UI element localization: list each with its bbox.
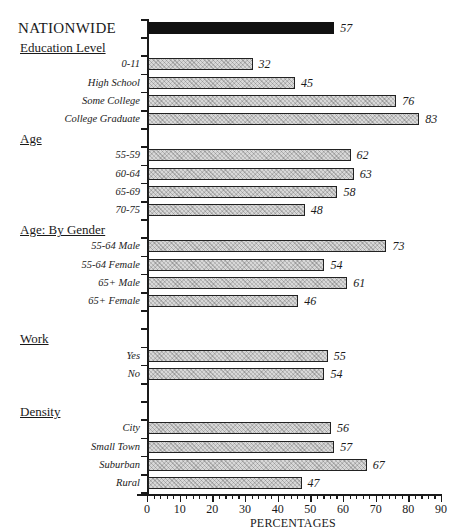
category-label: 65-69	[0, 186, 140, 198]
y-axis-tick	[141, 347, 147, 349]
bar-value-label: 76	[402, 95, 414, 107]
bar	[148, 149, 351, 161]
group-heading: Education Level	[20, 41, 106, 55]
bar	[148, 441, 334, 453]
x-axis-minor-tick	[434, 495, 435, 499]
x-tick-label: 30	[233, 502, 257, 517]
x-tick-label: 0	[135, 502, 159, 517]
x-axis-minor-tick	[297, 495, 298, 499]
bar-value-label: 61	[353, 277, 365, 289]
y-axis-tick	[141, 74, 147, 76]
x-axis-major-tick	[376, 495, 377, 502]
y-axis-tick	[141, 456, 147, 458]
x-axis-minor-tick	[421, 495, 422, 499]
category-label: City	[0, 422, 140, 434]
y-axis-tick	[141, 128, 147, 130]
x-axis-label: PERCENTAGES	[250, 516, 336, 531]
y-axis-tick	[141, 92, 147, 94]
y-axis-tick	[141, 183, 147, 185]
group-heading: Work	[20, 332, 49, 346]
bar-value-label: 54	[330, 259, 342, 271]
x-axis-minor-tick	[402, 495, 403, 499]
x-axis-major-tick	[408, 495, 409, 502]
x-axis-major-tick	[441, 495, 442, 502]
x-axis-minor-tick	[395, 495, 396, 499]
y-axis-tick	[141, 237, 147, 239]
bar	[148, 422, 331, 434]
x-axis-major-tick	[147, 495, 148, 502]
bar	[148, 368, 324, 380]
bar	[148, 186, 337, 198]
category-label: 60-64	[0, 168, 140, 180]
bar-value-label: 67	[373, 459, 385, 471]
x-axis-minor-tick	[258, 495, 259, 499]
category-label: Yes	[0, 350, 140, 362]
x-tick-label: 20	[200, 502, 224, 517]
x-tick-label: 10	[168, 502, 192, 517]
x-axis-major-tick	[212, 495, 213, 502]
y-axis-tick	[141, 201, 147, 203]
y-axis-tick	[141, 310, 147, 312]
category-label: 55-64 Female	[0, 259, 140, 271]
x-axis-minor-tick	[252, 495, 253, 499]
bar-value-label: 48	[311, 204, 323, 216]
y-axis-tick	[141, 365, 147, 367]
bar-value-label: 54	[330, 368, 342, 380]
category-label: 0-11	[0, 58, 140, 70]
x-axis-minor-tick	[336, 495, 337, 499]
x-axis-minor-tick	[291, 495, 292, 499]
category-label: 55-64 Male	[0, 240, 140, 252]
y-axis-tick	[141, 219, 147, 221]
x-tick-label: 50	[298, 502, 322, 517]
x-axis-minor-tick	[350, 495, 351, 499]
y-axis-tick	[141, 37, 147, 39]
y-axis-tick	[141, 165, 147, 167]
x-axis-minor-tick	[389, 495, 390, 499]
bar	[148, 95, 396, 107]
category-label: 65+ Male	[0, 277, 140, 289]
x-axis-minor-tick	[304, 495, 305, 499]
y-axis-tick	[141, 256, 147, 258]
x-axis-minor-tick	[173, 495, 174, 499]
x-tick-label: 80	[396, 502, 420, 517]
bar-value-label: 46	[304, 295, 316, 307]
y-axis-tick	[141, 328, 147, 330]
category-label: Small Town	[0, 441, 140, 453]
bar-value-label: 63	[360, 168, 372, 180]
bar-value-label: 58	[343, 186, 355, 198]
y-axis-tick	[141, 492, 147, 494]
nationwide-bar	[148, 22, 334, 34]
x-axis-minor-tick	[356, 495, 357, 499]
x-axis-minor-tick	[284, 495, 285, 499]
x-axis-major-tick	[343, 495, 344, 502]
category-label: No	[0, 368, 140, 380]
y-axis-tick	[141, 55, 147, 57]
bar	[148, 113, 419, 125]
y-axis-tick	[141, 474, 147, 476]
y-axis-tick	[141, 383, 147, 385]
bar	[148, 259, 324, 271]
category-label: 55-59	[0, 149, 140, 161]
bar-value-label: 56	[337, 422, 349, 434]
bar	[148, 477, 302, 489]
x-axis-minor-tick	[206, 495, 207, 499]
bar-value-label: 73	[392, 240, 404, 252]
y-axis-tick	[141, 146, 147, 148]
category-label: High School	[0, 77, 140, 89]
x-axis-minor-tick	[323, 495, 324, 499]
x-axis-minor-tick	[160, 495, 161, 499]
x-axis-minor-tick	[219, 495, 220, 499]
bar	[148, 240, 386, 252]
x-axis-minor-tick	[265, 495, 266, 499]
x-axis-major-tick	[278, 495, 279, 502]
x-axis-minor-tick	[271, 495, 272, 499]
x-axis-minor-tick	[154, 495, 155, 499]
bar	[148, 350, 328, 362]
x-tick-label: 90	[429, 502, 453, 517]
category-label: Rural	[0, 477, 140, 489]
group-heading: Age	[20, 132, 42, 146]
bar-value-label: 57	[340, 22, 352, 34]
group-heading: Age: By Gender	[20, 223, 105, 237]
category-label: Some College	[0, 95, 140, 107]
